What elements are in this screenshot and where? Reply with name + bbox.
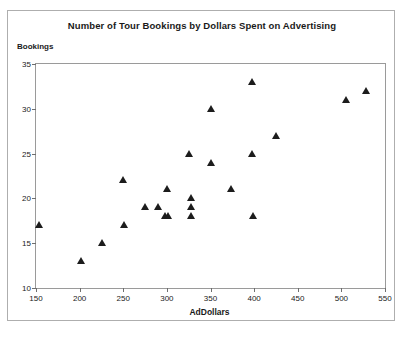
x-axis-tick-label: 550 bbox=[378, 294, 391, 303]
scatter-point bbox=[98, 239, 106, 246]
scatter-point bbox=[248, 78, 256, 85]
scatter-point bbox=[362, 87, 370, 94]
x-axis-tick-mark bbox=[80, 288, 81, 292]
scatter-point bbox=[272, 132, 280, 139]
scatter-point bbox=[342, 96, 350, 103]
x-axis-tick-label: 400 bbox=[247, 294, 260, 303]
y-axis-tick-mark bbox=[32, 154, 36, 155]
x-axis-tick-label: 150 bbox=[29, 294, 42, 303]
scatter-point bbox=[154, 203, 162, 210]
x-axis-tick-mark bbox=[211, 288, 212, 292]
x-axis-tick-label: 350 bbox=[204, 294, 217, 303]
x-axis-tick-label: 200 bbox=[73, 294, 86, 303]
scatter-point bbox=[185, 150, 193, 157]
scatter-point bbox=[207, 159, 215, 166]
scatter-point bbox=[164, 212, 172, 219]
x-axis-tick-label: 450 bbox=[291, 294, 304, 303]
scatter-point bbox=[119, 176, 127, 183]
x-axis-tick-label: 250 bbox=[117, 294, 130, 303]
scatter-point bbox=[187, 203, 195, 210]
chart-frame: Number of Tour Bookings by Dollars Spent… bbox=[7, 10, 395, 321]
y-axis-label: Bookings bbox=[17, 42, 53, 51]
x-axis-tick-mark bbox=[254, 288, 255, 292]
x-axis-tick-mark bbox=[341, 288, 342, 292]
scatter-point bbox=[248, 150, 256, 157]
scatter-point bbox=[77, 257, 85, 264]
scatter-point bbox=[207, 105, 215, 112]
x-axis-label: AdDollars bbox=[35, 307, 384, 317]
scatter-point bbox=[227, 185, 235, 192]
x-axis-tick-mark bbox=[167, 288, 168, 292]
x-axis-tick-mark bbox=[298, 288, 299, 292]
y-axis-tick-mark bbox=[32, 198, 36, 199]
x-axis-tick-mark bbox=[123, 288, 124, 292]
scatter-point bbox=[120, 221, 128, 228]
y-axis-tick-mark bbox=[32, 109, 36, 110]
scatter-point bbox=[249, 212, 257, 219]
plot-area: 101520253035150200250300350400450500550 bbox=[35, 63, 386, 289]
scatter-point bbox=[163, 185, 171, 192]
scatter-point bbox=[141, 203, 149, 210]
x-axis-tick-mark bbox=[385, 288, 386, 292]
y-axis-tick-mark bbox=[32, 64, 36, 65]
chart-title: Number of Tour Bookings by Dollars Spent… bbox=[8, 20, 396, 31]
scatter-point bbox=[35, 221, 43, 228]
scatter-point bbox=[187, 212, 195, 219]
scatter-point bbox=[187, 194, 195, 201]
x-axis-tick-label: 500 bbox=[335, 294, 348, 303]
x-axis-tick-mark bbox=[36, 288, 37, 292]
x-axis-tick-label: 300 bbox=[160, 294, 173, 303]
y-axis-tick-mark bbox=[32, 243, 36, 244]
